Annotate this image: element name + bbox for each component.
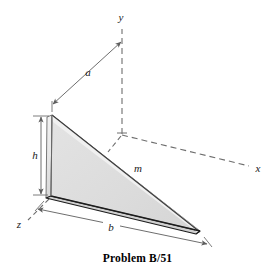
origin-connector-line [108, 136, 121, 152]
dimension-b-label: b [108, 221, 114, 233]
y-axis-label: y [118, 11, 124, 23]
dimension-a: a [52, 42, 121, 112]
dimension-h-label: h [32, 149, 38, 161]
z-axis-label: z [16, 218, 22, 230]
dimension-b-extension-right [204, 237, 212, 247]
x-axis-label: x [255, 162, 261, 174]
mass-label-m: m [134, 162, 142, 174]
figure-caption: Problem B/51 [0, 252, 275, 264]
dimension-a-label: a [85, 66, 91, 78]
figure-container: y x z a [0, 0, 275, 273]
problem-diagram: y x z a [0, 0, 275, 273]
